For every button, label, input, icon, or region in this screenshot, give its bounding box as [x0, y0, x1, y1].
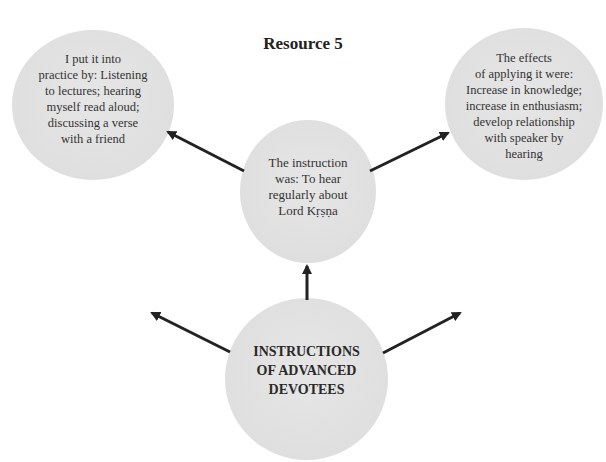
arrow-center-to-right — [370, 133, 448, 171]
arrow-bottom-to-right — [383, 313, 460, 353]
arrows-layer — [0, 0, 606, 462]
arrow-bottom-to-left — [152, 313, 230, 352]
arrow-center-to-left — [168, 132, 244, 171]
